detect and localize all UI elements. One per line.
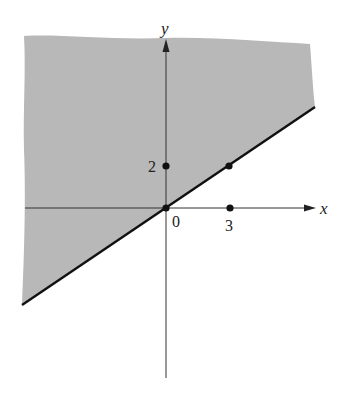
y-tick-point bbox=[162, 162, 169, 169]
shaded-region bbox=[22, 36, 315, 305]
x-axis-arrow-icon bbox=[304, 205, 316, 212]
origin-label: 0 bbox=[172, 213, 180, 230]
inequality-graph: y x 0 3 2 bbox=[0, 0, 343, 400]
x-tick-point bbox=[226, 204, 233, 211]
y-tick-label: 2 bbox=[148, 158, 156, 175]
y-axis-label: y bbox=[159, 19, 169, 38]
line-point bbox=[225, 162, 232, 169]
x-axis-label: x bbox=[319, 199, 328, 218]
x-tick-label: 3 bbox=[225, 217, 233, 234]
origin-point bbox=[162, 204, 169, 211]
